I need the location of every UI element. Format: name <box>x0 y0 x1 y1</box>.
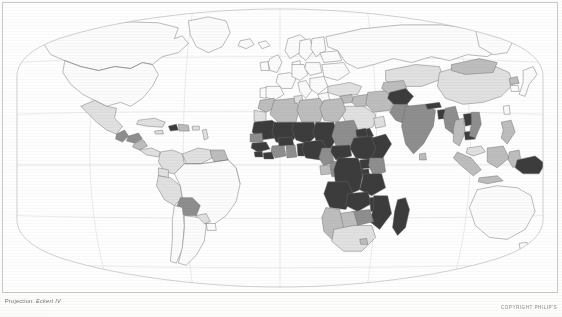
region-south-africa[interactable] <box>332 225 376 251</box>
region-mexico[interactable] <box>81 100 123 134</box>
region-malaysia[interactable] <box>466 146 485 156</box>
region-kenya[interactable] <box>369 158 386 176</box>
region-haiti[interactable] <box>168 124 178 131</box>
region-south-korea[interactable] <box>510 85 519 91</box>
region-balkans[interactable] <box>310 76 328 94</box>
region-iceland-eu[interactable] <box>258 41 270 49</box>
atlas-page-sheet: Projection: Eckert IV COPYRIGHT PHILIP'S <box>0 0 562 317</box>
projection-name: Eckert IV <box>36 298 61 304</box>
region-lesotho[interactable] <box>360 238 368 244</box>
region-belarus-baltics[interactable] <box>320 51 342 63</box>
region-australia[interactable] <box>469 186 535 240</box>
region-ukraine[interactable] <box>322 63 350 81</box>
region-new-zealand[interactable] <box>540 227 554 241</box>
world-choropleth-map[interactable] <box>3 3 557 292</box>
projection-label: Projection: Eckert IV <box>5 298 61 304</box>
region-egypt[interactable] <box>320 98 346 122</box>
region-greenland[interactable] <box>188 17 230 53</box>
region-indonesia-sumatra[interactable] <box>453 152 481 176</box>
region-vietnam[interactable] <box>469 112 481 138</box>
copyright-notice: COPYRIGHT PHILIP'S <box>501 305 557 310</box>
region-mongolia[interactable] <box>451 59 497 75</box>
region-india[interactable] <box>402 104 436 154</box>
region-sri-lanka[interactable] <box>419 153 426 160</box>
region-puerto-rico[interactable] <box>192 126 199 130</box>
region-thailand[interactable] <box>453 118 465 146</box>
region-dominican-republic[interactable] <box>178 124 189 131</box>
region-zambia[interactable] <box>346 192 372 212</box>
region-gabon[interactable] <box>320 165 332 175</box>
region-philippines[interactable] <box>501 120 515 144</box>
region-oman[interactable] <box>374 116 386 128</box>
region-ghana[interactable] <box>286 145 297 158</box>
region-taiwan[interactable] <box>503 105 510 114</box>
region-cuba[interactable] <box>137 118 166 127</box>
map-footer: Projection: Eckert IV COPYRIGHT PHILIP'S <box>0 294 562 317</box>
region-iceland[interactable] <box>238 39 254 49</box>
region-venezuela[interactable] <box>182 148 212 164</box>
region-nepal[interactable] <box>425 102 441 109</box>
region-indonesia-java[interactable] <box>478 176 503 184</box>
landmass-layer[interactable] <box>21 17 554 265</box>
region-burkina-faso[interactable] <box>278 137 294 146</box>
region-lesser-antilles[interactable] <box>202 129 208 140</box>
region-jamaica[interactable] <box>154 130 163 134</box>
region-ireland[interactable] <box>260 62 269 71</box>
region-tasmania[interactable] <box>519 242 528 249</box>
region-sierra-leone[interactable] <box>254 151 263 157</box>
region-madagascar[interactable] <box>393 198 410 236</box>
region-central-african-republic[interactable] <box>331 145 352 160</box>
region-guinea[interactable] <box>251 142 270 152</box>
projection-label-prefix: Projection: <box>5 298 34 304</box>
region-japan[interactable] <box>519 67 537 97</box>
region-portugal[interactable] <box>260 87 266 98</box>
region-costa-rica-panama[interactable] <box>140 148 161 157</box>
region-senegal[interactable] <box>250 133 263 142</box>
region-western-sahara[interactable] <box>254 110 266 122</box>
region-turkey[interactable] <box>328 82 362 96</box>
region-uruguay[interactable] <box>206 223 216 230</box>
map-frame <box>2 2 558 293</box>
